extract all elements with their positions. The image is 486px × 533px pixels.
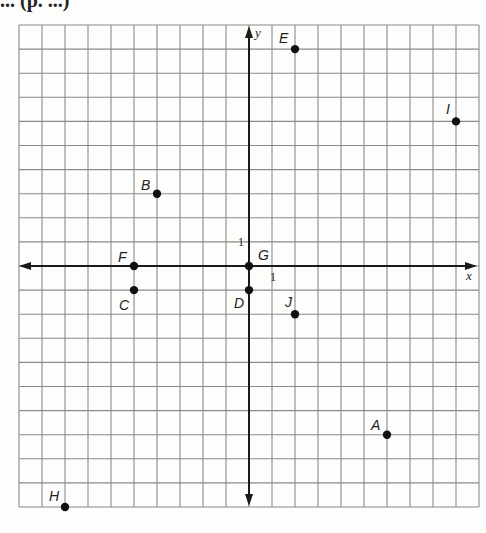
point-a-label: A — [370, 417, 380, 433]
point-j-label: J — [284, 294, 293, 310]
point-d-label: D — [234, 295, 244, 311]
point-f-marker — [130, 262, 138, 270]
point-b-marker — [153, 190, 161, 198]
point-f-label: F — [118, 249, 128, 265]
point-h-label: H — [49, 488, 60, 504]
point-g-label: G — [258, 247, 269, 263]
point-e-marker — [291, 45, 299, 53]
x-unit-tick-label: 1 — [270, 270, 276, 284]
y-unit-tick-label: 1 — [238, 235, 244, 249]
point-j-marker — [291, 310, 299, 318]
point-a-marker — [383, 431, 391, 439]
y-axis-label: y — [253, 25, 261, 40]
point-e-label: E — [279, 30, 289, 46]
point-b-label: B — [141, 177, 150, 193]
y-axis-up-arrow-icon — [245, 26, 253, 38]
point-i-label: I — [446, 101, 450, 117]
point-c-label: C — [119, 297, 130, 313]
x-axis-label: x — [465, 268, 472, 283]
point-i-marker — [452, 117, 460, 125]
point-d-marker — [245, 286, 253, 294]
point-g-marker — [245, 262, 253, 270]
x-axis-left-arrow-icon — [19, 262, 31, 270]
coordinate-plane: yx11 ABCDEFGHIJ — [0, 0, 486, 533]
point-h-marker — [61, 503, 69, 511]
y-axis-down-arrow-icon — [245, 494, 253, 506]
point-c-marker — [130, 286, 138, 294]
